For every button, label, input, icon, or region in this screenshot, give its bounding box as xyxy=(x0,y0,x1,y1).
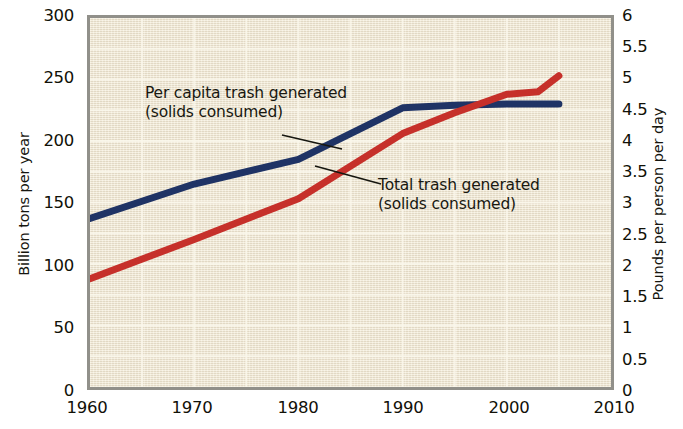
annotation-per-capita-line1: Per capita trash generated xyxy=(145,84,347,103)
y-axis-right-tick-6: 6 xyxy=(622,6,682,25)
leader-line-per-capita xyxy=(282,135,342,149)
y-axis-right-tick-5: 5 xyxy=(622,68,682,87)
y-axis-right-tick-1: 1 xyxy=(622,318,682,337)
x-axis-tick-1990: 1990 xyxy=(363,398,443,417)
annotation-per-capita-line2: (solids consumed) xyxy=(145,103,347,122)
y-axis-right-tick-3: 3 xyxy=(622,193,682,212)
x-axis-tick-2000: 2000 xyxy=(469,398,549,417)
y-axis-left-tick-250: 250 xyxy=(14,68,74,87)
annotation-total-line2: (solids consumed) xyxy=(378,195,540,214)
y-axis-left-tick-150: 150 xyxy=(14,193,74,212)
y-axis-right-tick-2: 2 xyxy=(622,256,682,275)
y-axis-right-tick-4-5: 4.5 xyxy=(622,100,682,119)
y-axis-right-tick-4: 4 xyxy=(622,131,682,150)
annotation-total-line1: Total trash generated xyxy=(378,176,540,195)
y-axis-left-tick-100: 100 xyxy=(14,256,74,275)
chart-figure: Billion tons per year Pounds per person … xyxy=(0,0,683,429)
x-axis-tick-1970: 1970 xyxy=(152,398,232,417)
y-axis-right-tick-1-5: 1.5 xyxy=(622,287,682,306)
plot-area: Per capita trash generated (solids consu… xyxy=(87,15,614,390)
y-axis-right-tick-2-5: 2.5 xyxy=(622,225,682,244)
y-axis-left-tick-300: 300 xyxy=(14,6,74,25)
x-axis-tick-1960: 1960 xyxy=(47,398,127,417)
y-axis-right-tick-3-5: 3.5 xyxy=(622,162,682,181)
annotation-total-trash: Total trash generated (solids consumed) xyxy=(378,176,540,214)
y-axis-left-tick-50: 50 xyxy=(14,318,74,337)
y-axis-right-tick-5-5: 5.5 xyxy=(622,37,682,56)
x-axis-tick-2010: 2010 xyxy=(574,398,654,417)
y-axis-right-tick-0-5: 0.5 xyxy=(622,350,682,369)
annotation-per-capita-trash: Per capita trash generated (solids consu… xyxy=(145,84,347,122)
x-axis-tick-1980: 1980 xyxy=(258,398,338,417)
leader-line-total xyxy=(315,166,381,184)
y-axis-left-tick-200: 200 xyxy=(14,131,74,150)
